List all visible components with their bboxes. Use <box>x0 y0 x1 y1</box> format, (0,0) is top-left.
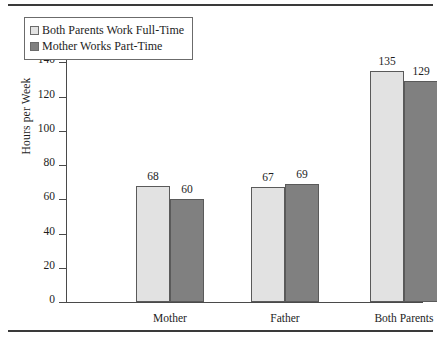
legend-item: Mother Works Part-Time <box>30 38 184 54</box>
x-axis-category-label: Mother <box>153 312 187 324</box>
bar: 67 <box>251 187 285 302</box>
x-axis-category-label: Both Parents <box>374 312 433 324</box>
y-axis-tick: 80 <box>59 165 66 166</box>
bar-value-label: 129 <box>412 65 429 77</box>
bar: 60 <box>170 199 204 302</box>
bars-layer: 68606769135129 <box>66 28 423 302</box>
bar: 129 <box>404 81 437 302</box>
legend-swatch-icon <box>30 42 39 51</box>
y-axis-tick: 60 <box>59 199 66 200</box>
y-axis-tick: 120 <box>59 97 66 98</box>
bar-group: 6769 <box>251 28 319 302</box>
legend-item: Both Parents Work Full-Time <box>30 22 184 38</box>
bar-value-label: 69 <box>296 168 308 180</box>
legend-label: Mother Works Part-Time <box>42 39 162 54</box>
x-axis-category-label: Father <box>270 312 299 324</box>
y-axis-tick: 100 <box>59 131 66 132</box>
y-axis-tick-label: 120 <box>38 88 55 100</box>
bar: 69 <box>285 184 319 302</box>
y-axis-tick-label: 80 <box>44 156 56 168</box>
y-axis-title: Hours per Week <box>20 46 32 186</box>
y-axis-tick: 40 <box>59 234 66 235</box>
y-axis-tick-label: 0 <box>49 293 55 305</box>
y-axis-tick-label: 60 <box>44 190 56 202</box>
y-axis-tick: 0 <box>59 302 66 303</box>
bar-value-label: 60 <box>181 183 193 195</box>
bar-value-label: 135 <box>378 55 395 67</box>
legend-label: Both Parents Work Full-Time <box>42 23 184 38</box>
bar-group: 6860 <box>136 28 204 302</box>
bar-chart-figure: Hours per Week 020406080100120140160 686… <box>0 0 437 345</box>
y-axis-tick: 20 <box>59 268 66 269</box>
bar-group: 135129 <box>370 28 437 302</box>
chart-legend: Both Parents Work Full-Time Mother Works… <box>24 17 193 60</box>
top-divider-rule <box>8 4 433 6</box>
bar: 68 <box>136 186 170 302</box>
y-axis-tick-label: 100 <box>38 122 55 134</box>
bar-value-label: 68 <box>147 170 159 182</box>
y-axis-tick-label: 20 <box>44 259 56 271</box>
bar: 135 <box>370 71 404 302</box>
bottom-divider-rule <box>8 330 433 332</box>
y-axis-tick-label: 40 <box>44 225 56 237</box>
bar-value-label: 67 <box>262 171 274 183</box>
y-axis-tick: 140 <box>59 62 66 63</box>
x-axis-line <box>66 302 423 303</box>
legend-swatch-icon <box>30 26 39 35</box>
plot-area: 020406080100120140160 68606769135129 Mot… <box>66 28 423 302</box>
